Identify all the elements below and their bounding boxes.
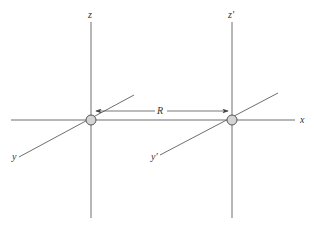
y-axis-left [19,95,134,157]
sphere-right [227,115,237,125]
z-axis-right-label: z′ [227,9,235,20]
sphere-left [86,115,96,125]
y-axis-right-label: y′ [150,151,158,162]
y-axis-right [160,93,278,155]
x-axis-label: x [299,114,305,125]
two-frame-diagram: x z z′ y y′ R [0,0,315,226]
distance-label: R [156,105,163,116]
z-axis-left-label: z [87,9,92,20]
y-axis-left-label: y [11,151,17,162]
